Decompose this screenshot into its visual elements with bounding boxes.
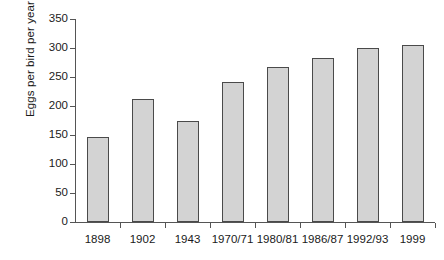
x-tick-mark [345, 223, 346, 228]
x-tick-label: 1898 [75, 232, 120, 246]
bar [177, 121, 199, 223]
x-tick-label: 1986/87 [300, 232, 345, 246]
bar [312, 58, 334, 222]
y-tick-label: 100 [8, 158, 68, 170]
y-axis-ticks: 050100150200250300350 [0, 0, 68, 260]
x-tick-label: 1943 [165, 232, 210, 246]
bars-layer [75, 19, 435, 222]
x-tick-mark [435, 223, 436, 228]
bar [267, 67, 289, 222]
y-tick-mark [70, 48, 75, 49]
x-tick-label: 1992/93 [345, 232, 390, 246]
x-tick-label: 1980/81 [255, 232, 300, 246]
x-tick-mark [165, 223, 166, 228]
y-tick-label: 350 [8, 13, 68, 25]
x-tick-mark [255, 223, 256, 228]
x-tick-mark [300, 223, 301, 228]
y-tick-mark [70, 135, 75, 136]
bar [402, 45, 424, 222]
bar [132, 99, 154, 222]
y-tick-label: 200 [8, 100, 68, 112]
x-tick-label: 1970/71 [210, 232, 255, 246]
bar [87, 137, 109, 222]
y-tick-label: 150 [8, 129, 68, 141]
y-tick-mark [70, 222, 75, 223]
bar [222, 82, 244, 222]
y-tick-mark [70, 193, 75, 194]
x-axis-labels: 1898190219431970/711980/811986/871992/93… [75, 232, 435, 252]
y-tick-label: 300 [8, 42, 68, 54]
y-tick-mark [70, 106, 75, 107]
y-tick-label: 250 [8, 71, 68, 83]
x-tick-label: 1999 [390, 232, 435, 246]
x-tick-mark [390, 223, 391, 228]
y-tick-label: 50 [8, 187, 68, 199]
bar-chart: Eggs per bird per year 05010015020025030… [0, 0, 444, 260]
y-tick-mark [70, 77, 75, 78]
y-tick-mark [70, 19, 75, 20]
bar [357, 48, 379, 222]
y-tick-label: 0 [8, 216, 68, 228]
x-tick-label: 1902 [120, 232, 165, 246]
x-tick-mark [120, 223, 121, 228]
y-tick-mark [70, 164, 75, 165]
x-tick-mark [210, 223, 211, 228]
